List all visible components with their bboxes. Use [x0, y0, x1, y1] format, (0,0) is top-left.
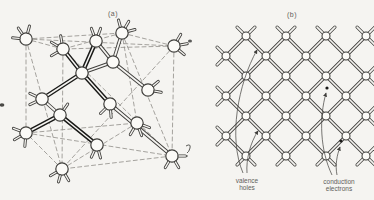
atom — [57, 43, 69, 55]
bond-stub — [217, 47, 224, 54]
electron-dot — [339, 139, 342, 142]
atom — [20, 127, 32, 139]
bond-stub — [277, 27, 284, 34]
bond-stub — [248, 27, 255, 34]
bond-stub — [317, 158, 324, 165]
bond-stub — [357, 158, 364, 165]
atom — [282, 112, 290, 120]
bond-stub — [277, 158, 284, 165]
bond-stub — [328, 27, 335, 34]
valence-holes-label-line1: valence — [236, 177, 259, 184]
bond-stub — [328, 158, 335, 165]
atom — [282, 32, 290, 40]
bond-stub — [217, 87, 224, 94]
cube-edge-dashed — [26, 33, 122, 39]
atom — [362, 152, 370, 160]
atom — [107, 56, 119, 68]
atom — [91, 139, 103, 151]
atom — [262, 132, 270, 140]
figure-crystal-structure: (a) (b) valence holes conduction electro… — [0, 0, 374, 200]
bond-stub — [217, 127, 224, 134]
atom — [242, 112, 250, 120]
cube-edge-dashed — [26, 133, 62, 169]
atom — [342, 52, 350, 60]
ink-speck — [188, 40, 192, 43]
conduction-electrons-leader — [336, 147, 340, 175]
panel-a-label: (a) — [108, 10, 118, 18]
atom — [262, 52, 270, 60]
cube-edge-dashed — [172, 46, 174, 156]
cube-edge-dashed — [122, 33, 174, 46]
atom — [76, 67, 88, 79]
atom — [242, 72, 250, 80]
ink-speck — [0, 103, 4, 106]
bond-stub — [248, 158, 255, 165]
conduction-electrons-label-line2: electrons — [326, 185, 353, 192]
atom — [56, 163, 68, 175]
bond-stub — [111, 111, 112, 117]
atom — [116, 27, 128, 39]
cube-edge-dashed — [62, 156, 172, 169]
bond-stub — [237, 27, 244, 34]
bond-stub — [217, 98, 224, 105]
panel-a-diamond-lattice-3d — [13, 20, 188, 182]
atom — [131, 117, 143, 129]
covalent-bond-bold — [42, 73, 82, 99]
atom — [362, 112, 370, 120]
figure-svg: (a) (b) valence holes conduction electro… — [0, 0, 374, 200]
ink-speck — [186, 155, 188, 157]
atom — [302, 132, 310, 140]
covalent-bond-bold — [60, 115, 97, 145]
atom — [322, 112, 330, 120]
atom — [322, 32, 330, 40]
panel-b-covalent-bond-lattice-2d — [217, 27, 374, 175]
panel-b-label: (b) — [287, 11, 297, 19]
bond-stub — [317, 27, 324, 34]
electron-dot — [325, 86, 328, 89]
bond-stub — [357, 27, 364, 34]
atom — [222, 132, 230, 140]
atom — [242, 32, 250, 40]
atom — [36, 93, 48, 105]
atom — [342, 92, 350, 100]
bond-stub — [288, 158, 295, 165]
atom — [302, 52, 310, 60]
atom — [302, 92, 310, 100]
bond-stub — [13, 38, 19, 39]
atom — [322, 72, 330, 80]
atom — [166, 150, 178, 162]
conduction-electrons-label-line1: conduction — [323, 178, 355, 185]
ink-squiggle — [186, 145, 190, 153]
atom — [222, 92, 230, 100]
atom — [222, 52, 230, 60]
bond-stub — [288, 27, 295, 34]
bond-stub — [217, 138, 224, 145]
atom — [342, 132, 350, 140]
bond-stub — [237, 158, 244, 165]
atom — [362, 32, 370, 40]
atom — [90, 35, 102, 47]
atom — [362, 72, 370, 80]
atom — [282, 152, 290, 160]
bond-stub — [25, 140, 26, 146]
atom — [282, 72, 290, 80]
atom — [262, 92, 270, 100]
bond-stub — [217, 58, 224, 65]
valence-holes-label-line2: holes — [239, 184, 255, 191]
